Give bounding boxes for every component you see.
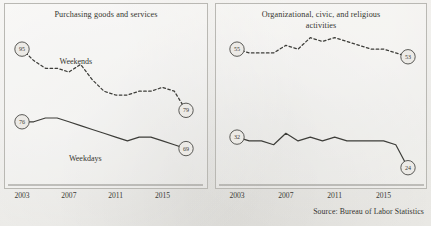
x-tick-2003: 2003 — [229, 191, 244, 200]
x-tick-2015: 2015 — [155, 191, 170, 200]
x-tick-2007: 2007 — [278, 191, 293, 200]
right-chart-series-group: 55533224 — [219, 38, 424, 185]
svg-text:53: 53 — [405, 54, 411, 60]
chart-lines-svg: 95797669 55533224 — [0, 0, 431, 196]
svg-text:79: 79 — [183, 107, 189, 113]
endpoint-marker-weekdays-start: 32 — [230, 130, 244, 144]
endpoint-marker-weekends-end: 79 — [179, 103, 193, 117]
source-note: Source: Bureau of Labor Statistics — [313, 207, 424, 216]
series-line-weekdays — [22, 118, 186, 149]
endpoint-marker-weekends-start: 55 — [230, 42, 244, 56]
endpoint-marker-weekdays-end: 69 — [179, 141, 193, 155]
svg-text:69: 69 — [183, 146, 189, 152]
chart-panels: Purchasing goods and services Organizati… — [0, 0, 431, 196]
x-axis-tick-labels: 20032007201120152003200720112015 — [0, 191, 431, 205]
series-line-weekdays — [237, 133, 408, 167]
x-tick-2011: 2011 — [108, 191, 123, 200]
svg-text:76: 76 — [19, 119, 25, 125]
endpoint-marker-weekends-end: 53 — [401, 50, 415, 64]
left-series-label-weekends: Weekends — [60, 57, 93, 66]
svg-text:32: 32 — [234, 134, 240, 140]
left-series-label-weekdays: Weekdays — [69, 154, 102, 163]
series-line-weekends — [237, 38, 408, 57]
svg-text:95: 95 — [19, 46, 25, 52]
endpoint-marker-weekdays-start: 76 — [15, 115, 29, 129]
left-chart-series-group: 95797669 — [8, 42, 203, 185]
series-line-weekends — [22, 49, 186, 110]
svg-text:24: 24 — [405, 165, 411, 171]
endpoint-marker-weekends-start: 95 — [15, 42, 29, 56]
x-tick-2011: 2011 — [327, 191, 342, 200]
x-tick-2007: 2007 — [61, 191, 76, 200]
endpoint-marker-weekdays-end: 24 — [401, 161, 415, 175]
svg-text:55: 55 — [234, 46, 240, 52]
x-tick-2015: 2015 — [376, 191, 391, 200]
x-tick-2003: 2003 — [14, 191, 29, 200]
